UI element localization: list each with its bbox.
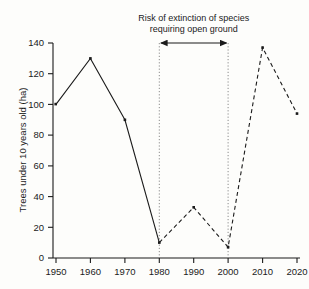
x-tick-label-1970: 1970 [114,266,135,277]
y-tick-label-80: 80 [33,129,44,140]
data-point-1960 [89,57,92,60]
y-tick-label-20: 20 [33,222,44,233]
x-tick-label-1950: 1950 [45,266,66,277]
y-tick-label-120: 120 [28,68,44,79]
annotation-line-2: requiring open ground [150,24,238,34]
x-tick-label-2010: 2010 [252,266,273,277]
data-point-1980 [158,241,161,244]
data-point-1950 [54,103,57,106]
data-point-2000 [227,246,230,249]
data-point-2020 [296,112,299,115]
x-tick-label-2020: 2020 [286,266,307,277]
y-tick-label-100: 100 [28,99,44,110]
annotation-line-1: Risk of extinction of species [138,13,250,23]
x-tick-label-1980: 1980 [149,266,170,277]
data-point-1970 [124,119,127,122]
x-tick-label-1990: 1990 [183,266,204,277]
data-point-1990 [192,206,195,209]
y-tick-label-60: 60 [33,160,44,171]
chart-figure: 0 20 40 60 80 100 120 140 1950 1960 1970… [0,0,309,289]
y-tick-label-40: 40 [33,191,44,202]
line-chart: 0 20 40 60 80 100 120 140 1950 1960 1970… [0,0,309,289]
y-axis-title: Trees under 10 years old (ha) [17,88,28,213]
x-tick-label-2000: 2000 [218,266,239,277]
y-tick-label-140: 140 [28,37,44,48]
x-tick-label-1960: 1960 [80,266,101,277]
chart-background [0,0,309,289]
y-tick-label-0: 0 [39,252,44,263]
data-point-2010 [261,46,264,49]
